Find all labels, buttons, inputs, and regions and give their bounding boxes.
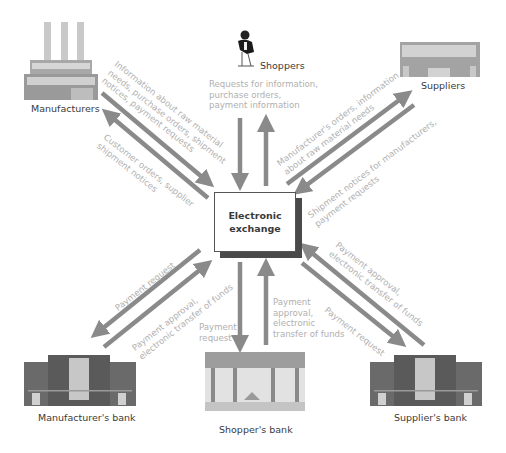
node-label-shoppers-bank: Shopper's bank	[219, 424, 293, 435]
node-label-suppliers-bank: Supplier's bank	[394, 412, 467, 423]
node-label-suppliers: Suppliers	[421, 80, 465, 91]
diagram-canvas: Electronic exchange Manufacturers Shoppe…	[0, 0, 506, 453]
node-label-manufacturers: Manufacturers	[31, 103, 100, 114]
shopper-person-icon	[238, 31, 254, 67]
flow-label-shoppers-hub: Requests for information, purchase order…	[209, 79, 318, 111]
hub-title-line-2: exchange	[229, 222, 280, 235]
bank-columns-icon	[205, 352, 305, 411]
bank-building-icon	[370, 355, 482, 406]
electronic-exchange-hub: Electronic exchange	[214, 192, 296, 252]
bank-building-icon	[24, 355, 136, 406]
node-label-manufacturers-bank: Manufacturer's bank	[38, 412, 136, 423]
hub-title-line-1: Electronic	[228, 209, 281, 222]
node-label-shoppers: Shoppers	[260, 60, 305, 71]
flow-label-hub-to-shoppers-bank: Payment request	[199, 322, 237, 343]
factory-icon	[24, 22, 98, 100]
warehouse-icon	[400, 42, 480, 77]
